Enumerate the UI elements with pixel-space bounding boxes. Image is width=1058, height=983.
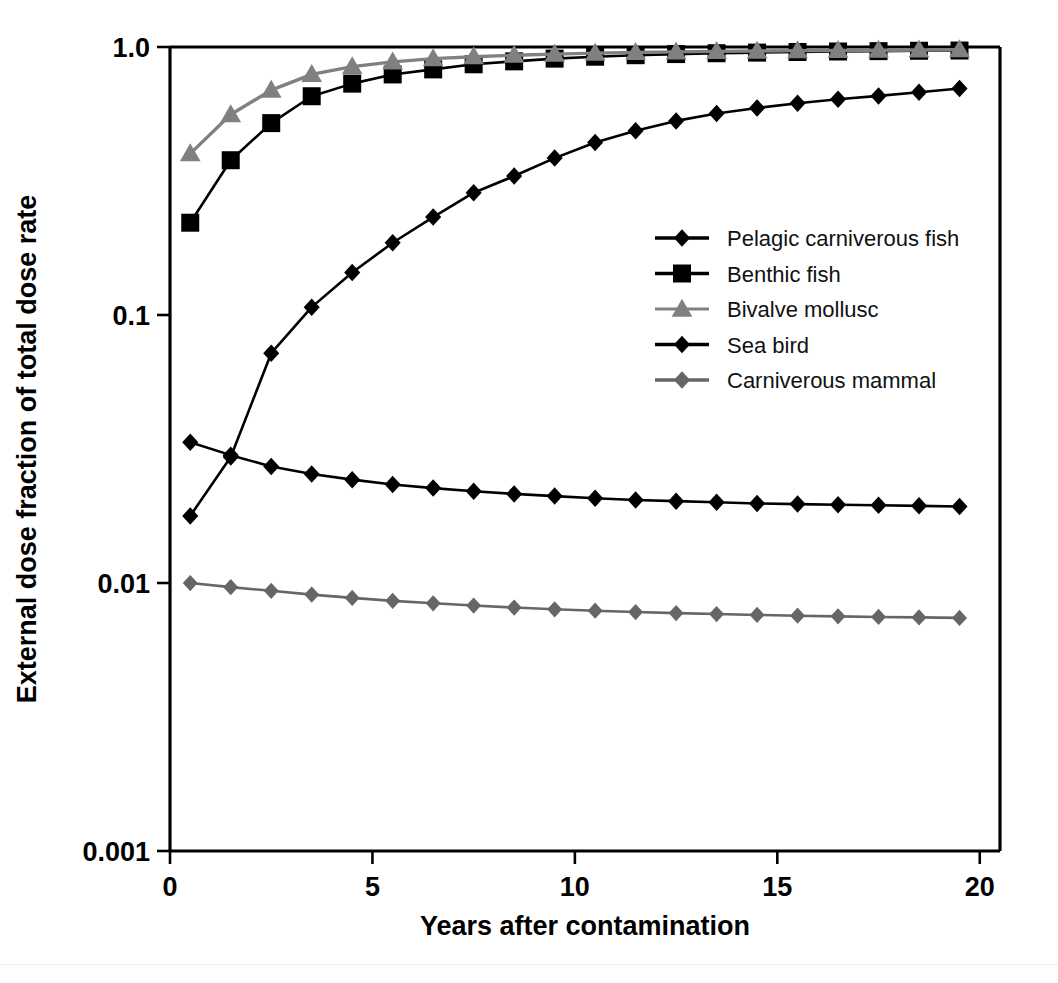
legend-item-label: Sea bird <box>727 333 809 358</box>
legend-item-label: Benthic fish <box>727 262 841 287</box>
legend-item-label: Bivalve mollusc <box>727 297 879 322</box>
data-point-marker <box>181 214 199 232</box>
y-axis-title: External dose fraction of total dose rat… <box>12 195 42 704</box>
x-tick-label: 10 <box>560 872 590 902</box>
x-axis-title: Years after contamination <box>420 911 750 941</box>
y-tick-label: 0.01 <box>97 569 150 599</box>
chart-canvas: 1.00.10.010.001 05101520 Years after con… <box>0 0 1058 983</box>
figure-container: 1.00.10.010.001 05101520 Years after con… <box>0 0 1058 983</box>
legend-item-label: Carniverous mammal <box>727 368 936 393</box>
x-tick-label: 15 <box>762 872 792 902</box>
x-tick-label: 0 <box>162 872 177 902</box>
data-point-marker <box>343 75 361 93</box>
legend-item-label: Pelagic carniverous fish <box>727 226 959 251</box>
data-point-marker <box>303 87 321 105</box>
x-tick-label: 20 <box>965 872 995 902</box>
legend-marker-square-icon <box>673 265 691 283</box>
y-tick-label: 0.1 <box>112 301 150 331</box>
data-point-marker <box>222 151 240 169</box>
page-bottom-edge <box>0 964 1058 983</box>
y-tick-label: 0.001 <box>82 837 150 867</box>
data-point-marker <box>262 114 280 132</box>
x-tick-label: 5 <box>365 872 380 902</box>
y-tick-label: 1.0 <box>112 33 150 63</box>
figure-background <box>0 0 1058 983</box>
